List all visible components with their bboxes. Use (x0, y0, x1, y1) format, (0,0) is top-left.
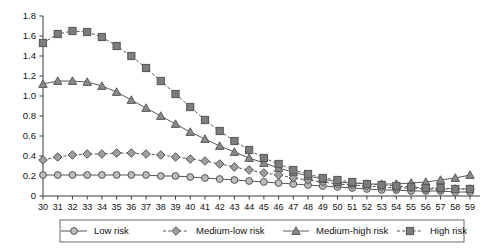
data-point-marker (260, 154, 267, 161)
data-point-marker (68, 151, 77, 160)
x-tick-label: 45 (259, 202, 269, 212)
data-point-marker (216, 176, 223, 183)
data-point-marker (334, 176, 341, 183)
data-point-marker (260, 169, 269, 178)
data-point-marker (172, 173, 179, 180)
legend-label: Medium-high risk (316, 225, 389, 236)
data-point-marker (54, 30, 61, 37)
data-point-marker (128, 172, 135, 179)
legend-item-medium-high-risk[interactable]: Medium-high risk (283, 225, 389, 236)
x-tick-label: 34 (97, 202, 107, 212)
data-point-marker (202, 175, 209, 182)
legend-item-medium-low-risk[interactable]: Medium-low risk (163, 225, 265, 236)
data-point-marker (201, 135, 209, 143)
y-axis-labels: 00.20.40.60.81.01.21.41.61.8 (23, 10, 36, 201)
data-point-marker (378, 181, 385, 188)
x-tick-label: 35 (112, 202, 122, 212)
y-tick-label: 1.8 (23, 10, 36, 21)
x-tick-label: 31 (53, 202, 63, 212)
x-tick-label: 40 (185, 202, 195, 212)
y-tick-label: 0 (31, 190, 36, 201)
x-tick-label: 53 (377, 202, 387, 212)
data-point-marker (187, 103, 194, 110)
x-tick-label: 57 (436, 202, 446, 212)
x-tick-label: 54 (391, 202, 401, 212)
data-point-marker (245, 166, 254, 175)
data-point-marker (187, 174, 194, 181)
data-point-marker (142, 150, 151, 159)
data-point-marker (466, 185, 473, 192)
data-point-marker (84, 28, 91, 35)
data-point-marker (172, 227, 181, 236)
data-point-marker (112, 149, 121, 158)
x-tick-label: 36 (126, 202, 136, 212)
data-point-marker (84, 172, 91, 179)
data-point-marker (54, 172, 61, 179)
data-point-marker (393, 182, 400, 189)
data-point-marker (186, 128, 194, 136)
data-point-marker (349, 178, 356, 185)
data-point-marker (230, 148, 238, 156)
data-point-marker (127, 149, 136, 158)
series-line (43, 81, 470, 184)
data-point-marker (157, 173, 164, 180)
data-point-marker (363, 180, 370, 187)
data-point-marker (98, 172, 105, 179)
x-tick-label: 43 (229, 202, 239, 212)
data-point-marker (128, 52, 135, 59)
y-tick-label: 1.2 (23, 70, 36, 81)
x-axis-labels: 3031323334353637383940414243444546474849… (38, 202, 475, 212)
data-point-marker (231, 177, 238, 184)
y-tick-label: 0.6 (23, 130, 36, 141)
data-point-marker (466, 171, 474, 179)
data-point-marker (215, 142, 223, 150)
data-point-marker (231, 137, 238, 144)
y-tick-label: 0.2 (23, 170, 36, 181)
data-point-marker (156, 151, 165, 160)
data-point-marker (127, 96, 135, 104)
data-point-marker (201, 116, 208, 123)
data-point-marker (275, 180, 282, 187)
legend-item-high-risk[interactable]: High risk (397, 225, 467, 236)
chart-legend: Low riskMedium-low riskMedium-high riskH… (60, 220, 467, 242)
x-tick-label: 51 (347, 202, 357, 212)
x-tick-label: 41 (200, 202, 210, 212)
data-point-marker (39, 156, 48, 165)
y-tick-label: 0.8 (23, 110, 36, 121)
x-tick-label: 48 (303, 202, 313, 212)
data-point-marker (69, 27, 76, 34)
x-tick-label: 56 (421, 202, 431, 212)
series-medium-high-risk (39, 77, 474, 188)
legend-label: Medium-low risk (196, 225, 265, 236)
data-point-marker (157, 77, 164, 84)
data-point-marker (406, 227, 413, 234)
x-tick-label: 52 (362, 202, 372, 212)
x-tick-label: 47 (288, 202, 298, 212)
data-point-marker (69, 172, 76, 179)
data-point-marker (71, 228, 78, 235)
data-point-marker (83, 150, 92, 159)
x-tick-label: 49 (318, 202, 328, 212)
data-point-marker (53, 153, 62, 162)
legend-label: Low risk (94, 225, 129, 236)
data-point-marker (260, 179, 267, 186)
data-point-marker (142, 64, 149, 71)
series-high-risk (39, 27, 473, 192)
legend-item-low-risk[interactable]: Low risk (61, 225, 129, 236)
series-layer (39, 27, 475, 195)
data-point-marker (186, 155, 195, 164)
data-point-marker (39, 39, 46, 46)
x-tick-label: 32 (67, 202, 77, 212)
data-point-marker (246, 178, 253, 185)
x-tick-label: 58 (450, 202, 460, 212)
data-point-marker (245, 154, 253, 162)
x-tick-label: 55 (406, 202, 416, 212)
data-point-marker (216, 127, 223, 134)
x-tick-label: 30 (38, 202, 48, 212)
data-point-marker (408, 183, 415, 190)
data-point-marker (98, 33, 105, 40)
x-tick-label: 59 (465, 202, 475, 212)
x-tick-label: 39 (171, 202, 181, 212)
chart-container: 00.20.40.60.81.01.21.41.61.8 30313233343… (0, 0, 486, 251)
data-point-marker (215, 160, 224, 169)
